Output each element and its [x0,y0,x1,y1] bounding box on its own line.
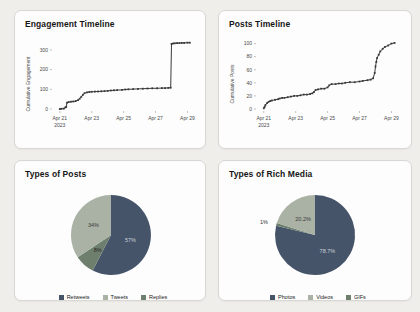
card-types-of-rich-media: Types of Rich Media 78.7%1%20.2% PhotosV… [218,160,412,301]
chart-title-engagement-timeline: Engagement Timeline [25,19,201,29]
svg-text:100: 100 [40,86,49,92]
legend-item-gifs[interactable]: GIFs [346,294,366,300]
line-chart-canvas: 0100200300Apr 212023Apr 23Apr 25Apr 27Ap… [25,32,203,136]
pie-percent-label-gifs: 1% [260,219,268,225]
chart-title-posts-timeline: Posts Timeline [229,19,407,29]
legend-types-of-rich-media: PhotosVideosGIFs [229,292,407,301]
legend-swatch-icon [308,295,313,300]
svg-text:Apr 27: Apr 27 [352,115,367,121]
types-of-posts-pie-chart[interactable]: 57%8%34% [25,182,201,289]
card-types-of-posts: Types of Posts 57%8%34% RetweetsTweetsRe… [14,160,206,301]
pie-percent-label-photos: 78.7% [320,248,336,254]
svg-text:Apr 27: Apr 27 [148,115,163,121]
legend-swatch-icon [103,295,108,300]
legend-label: Videos [316,294,333,300]
svg-text:Apr 25: Apr 25 [116,115,131,121]
types-of-rich-media-pie-chart[interactable]: 78.7%1%20.2% [229,182,407,289]
svg-text:Apr 21: Apr 21 [256,115,271,121]
svg-text:40: 40 [246,80,252,86]
chart-title-types-of-posts: Types of Posts [25,169,201,179]
svg-text:300: 300 [40,47,49,53]
svg-text:0: 0 [45,106,48,112]
legend-swatch-icon [346,295,351,300]
pie-percent-label-replies: 8% [94,247,102,253]
svg-text:0: 0 [249,106,252,112]
svg-text:Apr 23: Apr 23 [288,115,303,121]
pie-chart-canvas: 78.7%1%20.2% [229,182,407,289]
legend-label: Tweets [111,294,128,300]
svg-text:Apr 29: Apr 29 [384,115,399,121]
svg-text:20: 20 [246,93,252,99]
legend-label: Photos [278,294,295,300]
legend-item-videos[interactable]: Videos [308,294,333,300]
legend-label: Retweets [67,294,90,300]
svg-text:100: 100 [244,40,253,46]
card-engagement-timeline: Engagement Timeline Cumulative Engagemen… [14,10,206,149]
chart-title-types-of-rich-media: Types of Rich Media [229,169,407,179]
legend-label: Replies [149,294,167,300]
legend-item-replies[interactable]: Replies [141,294,167,300]
legend-swatch-icon [59,295,64,300]
svg-text:200: 200 [40,66,49,72]
svg-text:Apr 25: Apr 25 [320,115,335,121]
card-posts-timeline: Posts Timeline Cumulative Posts 02040608… [218,10,412,149]
legend-item-retweets[interactable]: Retweets [59,294,90,300]
svg-text:60: 60 [246,67,252,73]
posts-line-chart[interactable]: Cumulative Posts 020406080100Apr 212023A… [229,32,407,136]
pie-percent-label-retweets: 57% [125,237,136,243]
legend-swatch-icon [141,295,146,300]
pie-chart-canvas: 57%8%34% [25,182,203,289]
pie-percent-label-videos: 20.2% [295,216,311,222]
svg-text:Apr 29: Apr 29 [180,115,195,121]
legend-label: GIFs [354,294,366,300]
line-chart-canvas: 020406080100Apr 212023Apr 23Apr 25Apr 27… [229,32,407,136]
svg-text:2023: 2023 [258,122,269,128]
svg-text:Apr 21: Apr 21 [52,115,67,121]
legend-swatch-icon [270,295,275,300]
legend-types-of-posts: RetweetsTweetsReplies [25,292,201,301]
pie-percent-label-tweets: 34% [88,222,99,228]
legend-item-tweets[interactable]: Tweets [103,294,128,300]
legend-item-photos[interactable]: Photos [270,294,295,300]
dashboard: Engagement Timeline Cumulative Engagemen… [0,0,420,312]
svg-text:2023: 2023 [54,122,65,128]
engagement-line-chart[interactable]: Cumulative Engagement 0100200300Apr 2120… [25,32,201,136]
svg-text:80: 80 [246,53,252,59]
svg-text:Apr 23: Apr 23 [84,115,99,121]
